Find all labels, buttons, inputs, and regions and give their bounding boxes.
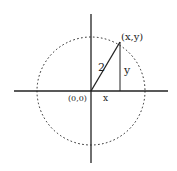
origin-label: (0,0) [68, 94, 87, 103]
hypotenuse-line [91, 42, 120, 91]
hypotenuse-label: 2 [98, 61, 105, 74]
coordinate-diagram: (x,y) (0,0) 2 x y [0, 0, 177, 171]
point-label: (x,y) [121, 31, 143, 42]
horizontal-leg-label: x [103, 93, 108, 103]
vertical-leg-label: y [123, 64, 131, 77]
